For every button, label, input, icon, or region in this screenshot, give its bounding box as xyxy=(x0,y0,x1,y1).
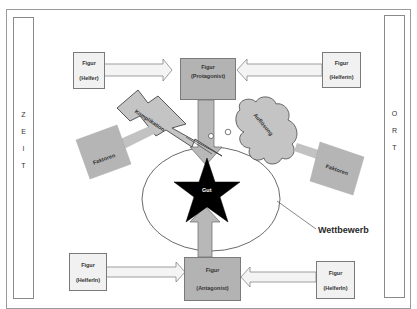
helper-bottom-right-box: Figur (HelferIn) xyxy=(316,261,355,299)
helper-title: Figur xyxy=(81,262,95,268)
protagonist-title: Figur xyxy=(201,64,215,70)
goal-label: Gut xyxy=(202,187,211,193)
helper-top-right-box: Figur (Helferin) xyxy=(322,52,361,88)
arrow-protagonist-down xyxy=(190,100,222,165)
helper-role: (Helfer) xyxy=(79,75,98,81)
arrow-helper-bottom-left xyxy=(106,262,185,282)
protagonist-role: (Protagonist) xyxy=(191,73,225,79)
competition-pointer-line xyxy=(277,201,316,229)
helper-role: (HelferIn) xyxy=(76,277,100,283)
antagonist-box: Figur (Antagonist) xyxy=(184,257,241,301)
protagonist-box: Figur (Protagonist) xyxy=(180,58,236,100)
helper-role: (HelferIn) xyxy=(323,285,347,291)
helper-top-left-box: Figur (Helfer) xyxy=(73,52,105,89)
helper-title: Figur xyxy=(335,60,349,66)
helper-title: Figur xyxy=(329,270,343,276)
helper-title: Figur xyxy=(82,60,96,66)
arrow-helper-bottom-right xyxy=(241,267,316,287)
arrow-helper-top-left xyxy=(104,59,172,81)
factors-left-shape xyxy=(76,125,156,179)
helper-role: (Helferin) xyxy=(329,74,353,80)
antagonist-title: Figur xyxy=(206,267,220,273)
arrow-helper-top-right xyxy=(237,59,322,81)
connector-circle xyxy=(209,134,214,139)
helper-bottom-left-box: Figur (HelferIn) xyxy=(69,253,107,291)
connector-circle xyxy=(225,129,231,135)
antagonist-role: (Antagonist) xyxy=(196,285,228,291)
competition-label: Wettbewerb xyxy=(318,225,369,235)
